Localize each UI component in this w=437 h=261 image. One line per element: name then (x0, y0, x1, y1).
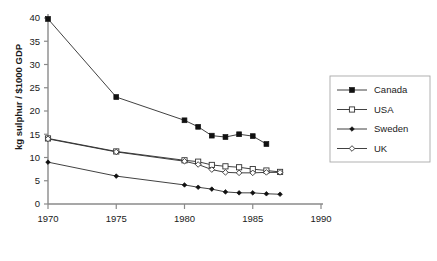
data-point (349, 107, 354, 112)
data-point (196, 124, 201, 129)
y-axis-tick-label: 0 (35, 198, 40, 209)
y-axis-tick-label: 20 (29, 105, 40, 116)
x-axis-tick-label: 1970 (37, 213, 58, 224)
y-axis-tick-label: 40 (29, 12, 40, 23)
y-axis-title-group: kg sulphur / $1000 GDP (13, 43, 24, 150)
x-axis-tick-label: 1980 (174, 213, 195, 224)
data-point (223, 135, 228, 140)
series-line (48, 19, 266, 144)
data-point (264, 191, 269, 196)
data-point (237, 191, 242, 196)
chart-legend: CanadaUSASwedenUK (330, 76, 430, 162)
data-point (46, 160, 51, 165)
data-point (250, 134, 255, 139)
data-point (264, 142, 269, 147)
data-point (114, 174, 119, 179)
legend-item-label: USA (374, 104, 394, 115)
y-axis-title: kg sulphur / $1000 GDP (13, 43, 24, 150)
data-point (182, 183, 187, 188)
data-point (223, 170, 229, 176)
y-axis-tick-label: 15 (29, 129, 40, 140)
data-point (237, 165, 242, 170)
series-line (48, 162, 280, 194)
data-point (46, 17, 51, 22)
data-point (237, 132, 242, 137)
y-axis-tick-label: 25 (29, 82, 40, 93)
x-axis-tick-label: 1975 (106, 213, 127, 224)
data-point (114, 95, 119, 100)
series-line (48, 138, 280, 171)
legend-item-label: UK (374, 143, 388, 154)
series-sweden (46, 160, 283, 197)
data-point (250, 191, 255, 196)
data-point (209, 133, 214, 138)
series-layer (45, 17, 283, 197)
y-axis-tick-label: 5 (35, 175, 40, 186)
y-axis-tick-label: 30 (29, 59, 40, 70)
data-point (223, 190, 228, 195)
data-point (350, 88, 355, 93)
y-axis: 0510152025303540 (29, 12, 48, 209)
chart-canvas: kg sulphur / $1000 GDP 0510152025303540 … (0, 0, 437, 261)
x-axis-tick-label: 1990 (310, 213, 331, 224)
x-axis: 19701975198019851990 (37, 204, 331, 224)
data-point (223, 164, 228, 169)
legend-item-label: Canada (374, 84, 408, 95)
data-point (210, 187, 215, 192)
series-uk (45, 136, 283, 176)
data-point (236, 170, 242, 176)
data-point (278, 192, 283, 197)
sulphur-intensity-chart: kg sulphur / $1000 GDP 0510152025303540 … (0, 0, 437, 261)
x-axis-tick-label: 1985 (242, 213, 263, 224)
data-point (182, 118, 187, 123)
y-axis-tick-label: 10 (29, 152, 40, 163)
data-point (196, 185, 201, 190)
series-canada (46, 17, 269, 147)
legend-item-label: Sweden (374, 123, 408, 134)
y-axis-tick-label: 35 (29, 36, 40, 47)
